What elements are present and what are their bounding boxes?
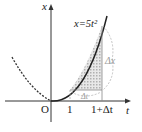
origin-label: O <box>41 103 49 115</box>
tick-1: 1 <box>67 103 73 115</box>
delta-x-label: Δx <box>104 55 116 66</box>
dashed-branch <box>12 57 51 101</box>
x-axis-arrow-icon <box>49 4 54 10</box>
tick-1-plus-dt: 1+Δt <box>91 103 113 115</box>
delta-t-label: Δt <box>80 92 89 101</box>
motion-diagram: x x=5t² Δx Δt O 1 1+Δt t <box>0 0 142 132</box>
t-axis-arrow-icon <box>125 99 131 104</box>
curve-label: x=5t² <box>73 18 98 29</box>
shaded-region <box>70 26 102 90</box>
x-axis-label: x <box>41 0 47 12</box>
t-axis-label: t <box>126 104 130 116</box>
